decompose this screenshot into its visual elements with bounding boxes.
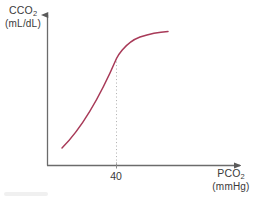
x-tick-label-40: 40 — [100, 170, 132, 182]
x-axis-label: PCO2 (mmHg) — [198, 168, 264, 192]
x-axis-units: (mmHg) — [198, 181, 264, 193]
y-axis-units: (mL/dL) — [0, 18, 46, 30]
co2-dissociation-curve — [62, 32, 168, 149]
y-axis-label-subscript: 2 — [33, 9, 37, 18]
chart-figure: CCO2 (mL/dL) PCO2 (mmHg) 40 — [0, 0, 270, 202]
y-axis-label: CCO2 (mL/dL) — [0, 5, 46, 29]
bottom-left-artifact — [4, 192, 48, 196]
y-axis-label-text: CCO2 — [0, 5, 46, 18]
x-axis-label-text: PCO2 — [198, 168, 264, 181]
x-axis-label-subscript: 2 — [241, 172, 245, 181]
